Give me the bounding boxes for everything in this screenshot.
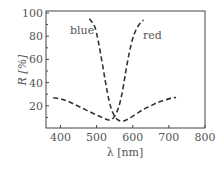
x-axis-label: λ [nm] xyxy=(107,146,144,159)
y-tick-label: 20 xyxy=(29,100,43,113)
y-axis-label: R [%] xyxy=(16,54,29,87)
x-tick-label: 800 xyxy=(195,131,216,144)
x-tick-label: 700 xyxy=(158,131,179,144)
series-red-line xyxy=(53,20,143,120)
y-tick-label: 80 xyxy=(29,30,43,43)
x-tick-label: 500 xyxy=(86,131,107,144)
y-tick-label: 60 xyxy=(29,53,43,66)
y-tick-label: 100 xyxy=(22,7,43,20)
y-tick-label: 40 xyxy=(29,77,43,90)
x-tick-label: 400 xyxy=(50,131,71,144)
annotation-red: red xyxy=(143,29,162,42)
series-blue-line xyxy=(89,19,176,121)
reflectance-chart: 20406080100 400500600700800 blue red λ [… xyxy=(0,0,221,169)
x-tick-label: 600 xyxy=(122,131,143,144)
annotation-blue: blue xyxy=(70,24,94,37)
